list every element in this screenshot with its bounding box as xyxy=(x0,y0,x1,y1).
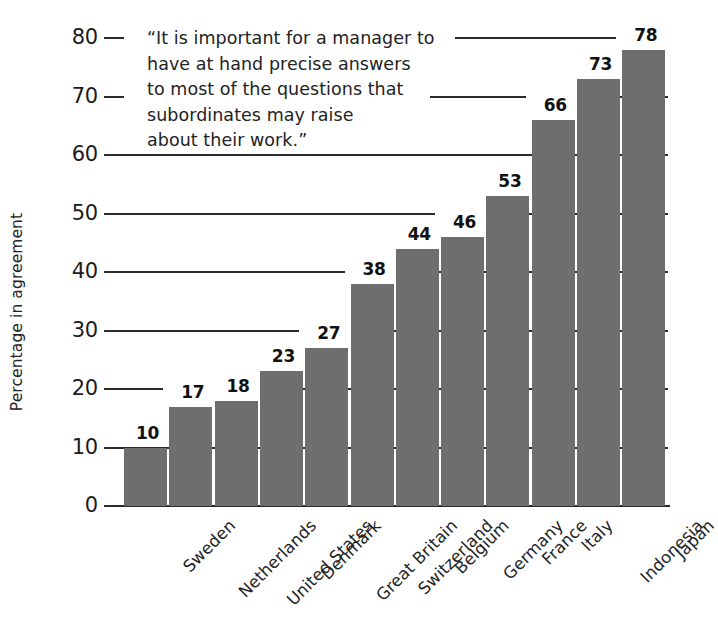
x-axis-tick-label: Sweden xyxy=(179,516,239,576)
